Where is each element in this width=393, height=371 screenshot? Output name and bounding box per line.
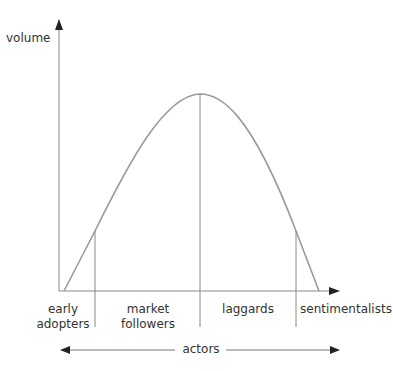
segment-line1: market bbox=[118, 302, 178, 317]
adoption-curve bbox=[64, 94, 319, 291]
segment-line2: adopters bbox=[36, 317, 90, 332]
segment-label-market-followers: market followers bbox=[118, 302, 178, 332]
arrow-right-icon bbox=[330, 346, 340, 354]
segment-line1: laggards bbox=[220, 302, 276, 317]
y-axis-arrow-icon bbox=[55, 19, 63, 30]
segment-line1: early bbox=[36, 302, 90, 317]
x-axis-label: actors bbox=[178, 342, 224, 357]
segment-line1: sentimentalists bbox=[300, 302, 388, 317]
x-axis-arrow-icon bbox=[329, 287, 340, 295]
segment-line2: followers bbox=[118, 317, 178, 332]
segment-label-laggards: laggards bbox=[220, 302, 276, 317]
arrow-left-icon bbox=[60, 346, 70, 354]
y-axis-label: volume bbox=[6, 31, 50, 46]
segment-label-early-adopters: early adopters bbox=[36, 302, 90, 332]
segment-label-sentimentalists: sentimentalists bbox=[300, 302, 388, 317]
